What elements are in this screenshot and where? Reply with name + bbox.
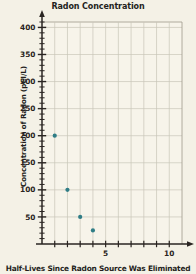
plot-area: 50100150200250300350400 510	[0, 0, 196, 274]
svg-text:50: 50	[25, 213, 35, 222]
svg-text:150: 150	[20, 158, 35, 167]
svg-text:100: 100	[20, 185, 35, 194]
svg-text:5: 5	[103, 249, 108, 258]
svg-text:350: 350	[20, 50, 35, 59]
x-axis-label: Half-Lives Since Radon Source Was Elimin…	[0, 264, 196, 273]
data-point	[53, 134, 57, 138]
svg-text:400: 400	[20, 23, 35, 32]
data-point	[65, 188, 69, 192]
data-point	[91, 228, 95, 232]
data-point	[78, 215, 82, 219]
svg-text:250: 250	[20, 104, 35, 113]
radon-concentration-chart: Radon Concentration Concentration of Rad…	[0, 0, 196, 274]
y-tick-labels: 50100150200250300350400	[20, 23, 35, 222]
svg-text:300: 300	[20, 77, 35, 86]
svg-text:200: 200	[20, 131, 35, 140]
x-tick-labels: 510	[103, 249, 174, 258]
svg-text:10: 10	[164, 249, 174, 258]
gridlines	[42, 22, 182, 244]
